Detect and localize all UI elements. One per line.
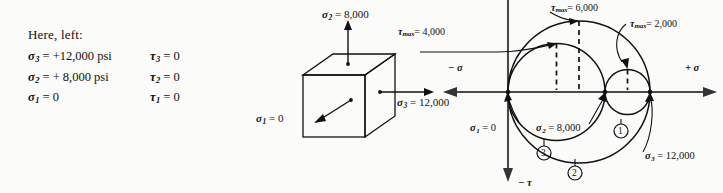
sigma-subscript: 1 [476, 127, 480, 135]
sigma-subscript: 2 [35, 75, 40, 85]
sigma3-origin-dot [378, 90, 382, 94]
sigma-subscript: 3 [651, 155, 655, 163]
sigma1-value: = 0 [40, 90, 62, 104]
sigma1-point-label: σ1 = 0 [470, 122, 496, 135]
tau-max-2000-leader [617, 24, 626, 62]
sigma1-line: σ1= 0 [28, 91, 150, 105]
sigma2-point-label: σ2 = 8,000 [536, 122, 580, 135]
sigma3-arrowhead [424, 88, 434, 96]
stress-data-block: Here, left: σ3= +12,000 psi τ3= 0 σ2= + … [28, 28, 183, 112]
sigma1-origin-dot [349, 98, 353, 102]
sigma1-point-value: = 0 [482, 122, 496, 133]
stress-row: σ3= +12,000 psi τ3= 0 [28, 50, 183, 64]
tau-max-2000-value: = 2,000 [646, 18, 677, 29]
sigma-symbol: σ [28, 90, 35, 104]
sigma-subscript: 1 [35, 95, 40, 105]
tau-symbol: τ [150, 90, 156, 104]
pos-sigma-label: + σ [685, 62, 699, 73]
tau-subscript: max [402, 30, 414, 38]
tau2-line: τ2= 0 [150, 71, 183, 85]
mohr-circle-diagram: − σ + σ − τ τmax= 4,000 τmax= 6,000 τmax… [440, 0, 723, 193]
stress-row: σ2= + 8,000 psi τ2= 0 [28, 71, 183, 85]
tau3-value: = 0 [160, 49, 182, 63]
tau-subscript: max [555, 6, 567, 14]
sigma-symbol: σ [28, 49, 35, 63]
sigma2-point-value: = 8,000 [548, 122, 580, 133]
sigma3-point-value: = 12,000 [657, 150, 694, 161]
cube-front-face [303, 75, 365, 137]
tau-subscript: max [634, 22, 646, 30]
sigma-subscript: 2 [542, 127, 546, 135]
intro-text: Here, left: [28, 28, 183, 41]
tau3-line: τ3= 0 [150, 50, 183, 64]
tau-symbol: τ [150, 70, 156, 84]
sigma2-value: = + 8,000 psi [40, 70, 112, 84]
sigma3-point-label: σ3 = 12,000 [645, 150, 695, 163]
sigma3-leader-head [645, 92, 654, 102]
sigma-symbol: σ [28, 70, 35, 84]
sigma-subscript: 3 [403, 101, 407, 110]
cube-sigma2-label: σ2 = 8,000 [322, 8, 369, 22]
tau1-line: τ1= 0 [150, 91, 183, 105]
tau-max-6000-value: = 6,000 [567, 2, 598, 13]
sigma1-leader-head [504, 92, 512, 102]
cube-sigma1-label: σ1 = 0 [256, 112, 283, 126]
sigma2-value: = 8,000 [335, 8, 369, 20]
mohr-svg [440, 0, 723, 193]
sigma-symbol: σ [645, 150, 651, 161]
sigma1-value: = 0 [269, 112, 283, 124]
tau-max-2000-label: τmax= 2,000 [630, 18, 677, 30]
sigma1-arrow [321, 100, 351, 119]
neg-sigma-arrowhead [443, 87, 457, 97]
tau-symbol: τ [150, 49, 156, 63]
sigma-subscript: 3 [35, 54, 40, 64]
sigma-symbol: σ [536, 122, 542, 133]
sigma-symbol: σ [470, 122, 476, 133]
neg-tau-arrowhead [503, 168, 513, 182]
circle-number-1: 1 [618, 126, 623, 136]
neg-sigma-label: − σ [448, 62, 463, 73]
tau-max-4000-label: τmax= 4,000 [398, 26, 445, 38]
sigma2-leader-head [598, 92, 606, 102]
tau-max-4000-value: = 4,000 [414, 26, 445, 37]
sigma-subscript: 1 [262, 117, 266, 126]
tau2-value: = 0 [160, 70, 182, 84]
tau-max-6000-label: τmax= 6,000 [551, 2, 598, 14]
sigma2-line: σ2= + 8,000 psi [28, 71, 150, 85]
tau1-value: = 0 [160, 90, 182, 104]
sigma2-origin-dot [346, 62, 350, 66]
sigma3-value: = +12,000 psi [40, 49, 115, 63]
circle-number-3: 3 [541, 148, 546, 158]
pos-sigma-arrowhead [703, 87, 717, 97]
figure-canvas: Here, left: σ3= +12,000 psi τ3= 0 σ2= + … [0, 0, 723, 193]
sigma1-arrowhead [314, 114, 326, 123]
tau-max-2000-leader-head [621, 58, 629, 69]
sigma-subscript: 2 [328, 13, 332, 22]
stress-row: σ1= 0 τ1= 0 [28, 91, 183, 105]
tau-max-6000-leader-head [569, 18, 579, 25]
circle-number-2: 2 [572, 168, 577, 178]
cube-right-face [365, 54, 395, 137]
neg-tau-label: − τ [518, 177, 532, 188]
sigma3-line: σ3= +12,000 psi [28, 50, 150, 64]
